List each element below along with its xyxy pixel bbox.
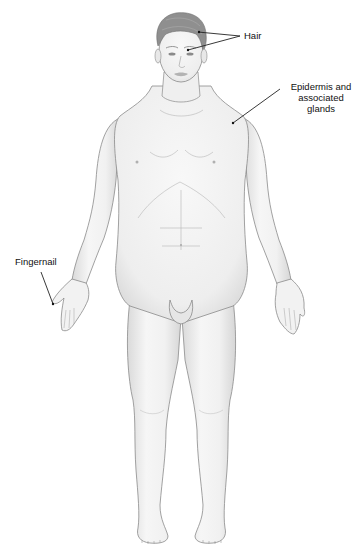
right-hand (52, 279, 89, 331)
label-epidermis-line-1: Epidermis and (283, 81, 359, 92)
left-ear (201, 49, 207, 63)
right-ear (155, 49, 161, 63)
left-leg (182, 300, 236, 543)
fingernail-leader-line (41, 272, 53, 304)
torso (115, 86, 249, 322)
label-epidermis-line-2: associated (283, 92, 359, 103)
left-arm (243, 118, 291, 284)
right-eye (169, 53, 176, 56)
left-eye (187, 53, 194, 56)
epidermis-leader-line (233, 89, 280, 123)
right-arm (72, 118, 120, 284)
left-hand (275, 279, 304, 334)
label-fingernail: Fingernail (15, 256, 57, 267)
label-hair: Hair (244, 30, 261, 41)
label-epidermis-line-3: glands (283, 103, 359, 114)
label-epidermis: Epidermis and associated glands (283, 81, 359, 114)
legs (127, 300, 235, 544)
right-leg (127, 300, 181, 543)
